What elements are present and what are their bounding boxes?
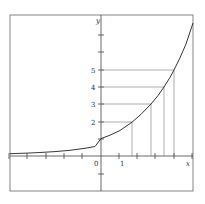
exp-curve	[10, 23, 193, 154]
plot-frame	[10, 15, 193, 191]
y-tick-label-3: 3	[91, 101, 95, 109]
y-axis-label: y	[95, 17, 101, 25]
guide-lines	[101, 70, 174, 156]
x-axis-label: x	[186, 160, 190, 168]
y-tick-label-4: 4	[91, 84, 96, 92]
x-tick-label-1: 1	[120, 160, 124, 168]
exp-chart: y x 0 1 2 3 4 5	[0, 0, 205, 204]
y-tick-label-2: 2	[91, 119, 95, 127]
origin-label: 0	[94, 160, 98, 168]
y-tick-label-5: 5	[91, 67, 95, 75]
